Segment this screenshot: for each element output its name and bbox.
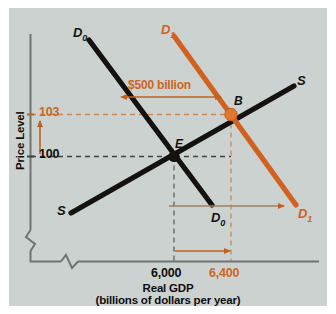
curve-label-d1-upper-text: D (161, 22, 170, 37)
point-label-B: B (234, 95, 242, 107)
x-axis-title-line1: Real GDP (9, 283, 327, 295)
y-tick-label-100: 100 (39, 148, 59, 161)
curve-label-d0-lower-sub: 0 (220, 218, 225, 228)
curve-label-s-lower: S (57, 204, 65, 217)
curve-label-d1-upper-sub: 1 (170, 30, 175, 40)
x-axis-title-line2: (billions of dollars per year) (9, 295, 327, 306)
curve-label-d0-upper-sub: 0 (82, 33, 87, 43)
curve-label-d0-lower: D0 (211, 211, 225, 228)
point-E-dot (168, 151, 179, 162)
curve-label-d1-lower: D1 (298, 207, 312, 224)
curve-label-d1-lower-text: D (298, 206, 307, 221)
curve-label-d1-lower-sub: 1 (307, 214, 312, 224)
curve-label-d1-upper: D1 (161, 23, 175, 40)
x-tick-label-6000: 6,000 (151, 267, 181, 280)
point-B-dot (225, 108, 237, 120)
curve-label-s-upper: S (297, 74, 305, 87)
curve-label-d0-upper-text: D (73, 25, 82, 40)
figure-frame: Price Level 103 100 6,000 6,400 Real GDP… (0, 0, 336, 314)
x-tick-label-6400: 6,400 (209, 267, 239, 280)
y-axis-title: Price Level (15, 111, 27, 170)
curve-label-d0-upper: D0 (73, 26, 87, 43)
shift-annotation-label: $500 billion (128, 79, 191, 91)
y-tick-label-103: 103 (39, 106, 59, 119)
point-label-E: E (175, 138, 183, 150)
chart-plate: Price Level 103 100 6,000 6,400 Real GDP… (9, 8, 327, 306)
annotation-arrows (40, 97, 284, 251)
curve-label-d0-lower-text: D (211, 210, 220, 225)
